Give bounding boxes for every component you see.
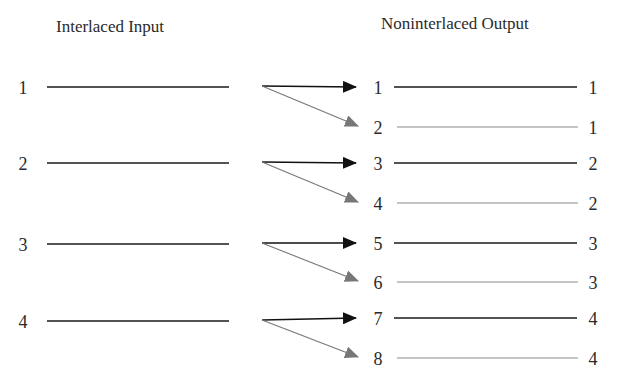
output-source-label: 3 bbox=[589, 274, 598, 292]
output-row-label: 5 bbox=[374, 235, 383, 253]
secondary-arrow bbox=[262, 320, 358, 357]
input-lines bbox=[47, 87, 229, 321]
primary-arrow bbox=[262, 318, 356, 320]
interlace-diagram bbox=[0, 0, 620, 384]
arrows bbox=[262, 86, 358, 357]
output-row-label: 4 bbox=[374, 195, 383, 213]
output-row-label: 2 bbox=[374, 119, 383, 137]
input-row-label: 1 bbox=[19, 79, 28, 97]
output-source-label: 4 bbox=[589, 350, 598, 368]
output-row-label: 7 bbox=[374, 310, 383, 328]
input-row-label: 4 bbox=[19, 313, 28, 331]
output-row-label: 3 bbox=[374, 155, 383, 173]
input-row-label: 2 bbox=[19, 155, 28, 173]
output-source-label: 1 bbox=[589, 119, 598, 137]
output-source-label: 3 bbox=[589, 235, 598, 253]
output-source-label: 2 bbox=[589, 155, 598, 173]
secondary-arrow bbox=[262, 243, 358, 281]
secondary-arrow bbox=[262, 162, 358, 202]
output-row-label: 6 bbox=[374, 274, 383, 292]
output-source-label: 1 bbox=[589, 79, 598, 97]
output-lines bbox=[394, 87, 578, 358]
output-source-label: 4 bbox=[589, 310, 598, 328]
secondary-arrow bbox=[262, 86, 358, 126]
input-row-label: 3 bbox=[19, 236, 28, 254]
primary-arrow bbox=[262, 162, 356, 163]
output-source-label: 2 bbox=[589, 195, 598, 213]
output-row-label: 1 bbox=[374, 79, 383, 97]
output-row-label: 8 bbox=[374, 350, 383, 368]
primary-arrow bbox=[262, 86, 356, 87]
